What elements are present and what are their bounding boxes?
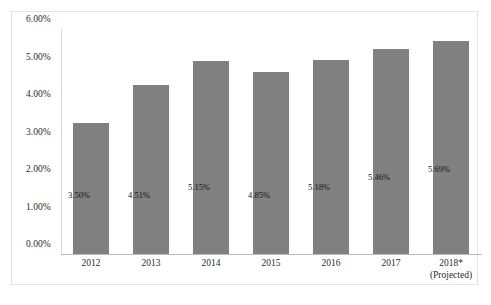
bar-slot: 5.15%: [181, 29, 241, 254]
x-axis-label-text: 2015: [262, 258, 281, 268]
x-axis-label: 2015: [241, 257, 301, 269]
bar-value-label: 5.15%: [181, 182, 217, 192]
x-axis-label-text: 2014: [202, 258, 221, 268]
bar-value-label: 4.51%: [121, 190, 157, 200]
bar-value-label: 5.18%: [301, 182, 337, 192]
x-axis-label: 2016: [301, 257, 361, 269]
x-axis-label-text: 2017: [382, 258, 401, 268]
bar-slot: 3.50%: [61, 29, 121, 254]
x-axis-category-labels: 2012 2013 2014 2015 2016 2017 2018* (Pro…: [61, 257, 482, 297]
bar-slot: 4.85%: [241, 29, 301, 254]
bar-chart: 6.00% 5.00% 4.00% 3.00% 2.00% 1.00% 0.00…: [0, 0, 491, 305]
bars-layer: 3.50% 4.51% 5.15% 4.85% 5.18% 5.46%: [61, 29, 482, 254]
bar-slot: 5.46%: [361, 29, 421, 254]
bar-value-label: 5.46%: [361, 172, 397, 182]
bar[interactable]: [433, 41, 469, 254]
x-axis-label-text: 2016: [322, 258, 341, 268]
bar[interactable]: [313, 60, 349, 254]
bar[interactable]: [253, 72, 289, 254]
bar-value-label: 5.69%: [421, 164, 457, 174]
bar-value-label: 3.50%: [61, 190, 97, 200]
x-axis-label-sublabel: (Projected): [421, 269, 481, 281]
y-axis-tick-label: 6.00%: [26, 14, 70, 24]
bar[interactable]: [73, 123, 109, 254]
bar[interactable]: [133, 85, 169, 254]
x-axis-line: [61, 254, 482, 255]
x-axis-label: 2014: [181, 257, 241, 269]
x-axis-label-text: 2013: [142, 258, 161, 268]
bar[interactable]: [193, 61, 229, 254]
bar[interactable]: [373, 49, 409, 254]
bar-slot: 4.51%: [121, 29, 181, 254]
x-axis-label: 2012: [61, 257, 121, 269]
x-axis-label-text: 2012: [82, 258, 101, 268]
x-axis-label: 2013: [121, 257, 181, 269]
x-axis-label: 2017: [361, 257, 421, 269]
bar-slot: 5.69%: [421, 29, 481, 254]
bar-slot: 5.18%: [301, 29, 361, 254]
bar-value-label: 4.85%: [241, 190, 277, 200]
x-axis-label: 2018* (Projected): [421, 257, 481, 281]
chart-frame: 6.00% 5.00% 4.00% 3.00% 2.00% 1.00% 0.00…: [11, 11, 478, 285]
x-axis-label-text: 2018*: [439, 258, 463, 268]
